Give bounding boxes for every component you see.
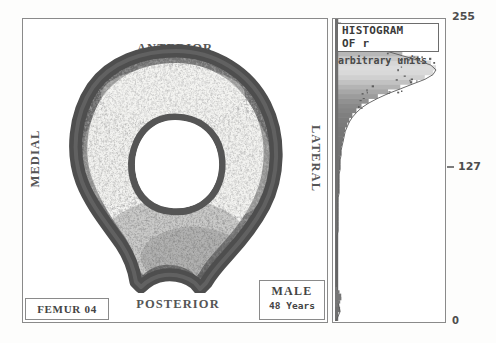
- histogram-speckle: [362, 93, 364, 95]
- axis-tick-label-0: 0: [452, 315, 459, 326]
- histogram-speckle: [396, 79, 398, 81]
- histogram-speckle: [429, 58, 431, 60]
- histogram-bar: [335, 98, 369, 103]
- histogram-speckle: [358, 106, 360, 108]
- histogram-bar: [335, 287, 337, 290]
- histogram-speckle: [397, 92, 399, 94]
- histogram-bar: [335, 84, 400, 89]
- histogram-speckle: [360, 100, 362, 101]
- orientation-label-lateral: LATERAL: [308, 123, 323, 195]
- histogram-speckle: [433, 62, 435, 64]
- specimen-id-label: FEMUR 04: [37, 303, 97, 315]
- figure-root: ANTERIOR POSTERIOR MEDIAL LATERAL: [0, 0, 496, 343]
- histogram-speckle: [367, 92, 368, 94]
- histogram-subtitle: arbitrary units: [338, 55, 427, 66]
- histogram-speckle: [397, 69, 399, 71]
- specimen-id-box: FEMUR 04: [25, 298, 109, 320]
- histogram-bar: [335, 290, 340, 293]
- subject-info-box: MALE 48 Years: [259, 280, 325, 320]
- histogram-bar: [335, 297, 341, 300]
- subject-sex: MALE: [260, 284, 324, 299]
- medullary-cavity: [132, 117, 223, 212]
- axis-tick-label-127: 127: [458, 160, 481, 173]
- histogram-bar: [335, 94, 378, 99]
- histogram-panel: HISTOGRAM OF r arbitrary units: [332, 18, 446, 323]
- histogram-speckle: [363, 98, 365, 99]
- orientation-label-posterior: POSTERIOR: [103, 297, 253, 312]
- histogram-title-line-1: HISTOGRAM: [342, 25, 435, 38]
- orientation-label-medial: MEDIAL: [28, 123, 43, 195]
- histogram-speckle: [372, 85, 374, 87]
- histogram-speckle: [416, 81, 418, 82]
- bone-cross-section-image: [43, 43, 308, 293]
- histogram-bar: [335, 103, 362, 108]
- histogram-bar: [335, 89, 388, 94]
- histogram-speckle: [388, 91, 390, 92]
- histogram-speckle: [388, 93, 390, 94]
- histogram-title-line-2: OF r: [342, 38, 435, 51]
- histogram-bar: [335, 304, 338, 307]
- subject-age: 48 Years: [260, 299, 324, 313]
- axis-tick-label-255: 255: [452, 10, 475, 23]
- histogram-speckle: [366, 89, 367, 91]
- histogram-speckle: [401, 67, 402, 68]
- histogram-bar: [335, 300, 340, 303]
- histogram-bar: [335, 79, 413, 84]
- histogram-speckle: [411, 79, 413, 81]
- histogram-title-box: HISTOGRAM OF r: [337, 23, 439, 52]
- histogram-bar: [335, 108, 356, 113]
- axis-tick-mark-127: [447, 166, 454, 168]
- histogram-speckle: [404, 76, 406, 77]
- bone-svg: [43, 43, 308, 293]
- histogram-bar: [335, 70, 433, 75]
- histogram-speckle: [410, 81, 412, 83]
- histogram-speckle: [409, 80, 410, 82]
- ct-panel: ANTERIOR POSTERIOR MEDIAL LATERAL: [22, 18, 328, 323]
- histogram-bar: [335, 294, 341, 297]
- histogram-speckle: [401, 91, 402, 93]
- histogram-speckle: [361, 108, 362, 109]
